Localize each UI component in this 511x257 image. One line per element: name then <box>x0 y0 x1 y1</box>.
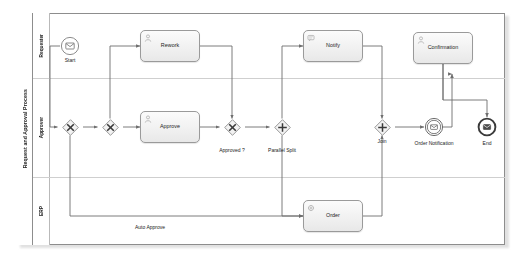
task-confirmation[interactable]: Confirmation <box>413 32 473 64</box>
lane-label-erp-text: ERP <box>39 206 44 216</box>
gateway-join-label: Join <box>367 139 397 144</box>
pool-label: Request and Approval Process <box>17 13 33 245</box>
x-gateway-icon <box>224 119 241 136</box>
event-end[interactable] <box>477 117 497 137</box>
event-order-notification-label: Order Notification <box>398 141 470 146</box>
gateway-loop[interactable] <box>102 119 119 136</box>
envelope-filled-icon <box>477 117 497 137</box>
gateway-join[interactable] <box>374 119 391 136</box>
lane-label-requester: Requester <box>33 13 50 78</box>
task-confirmation-label: Confirmation <box>428 45 459 50</box>
event-start[interactable] <box>60 36 80 56</box>
plus-gateway-icon <box>274 119 291 136</box>
gateway-merge[interactable] <box>62 119 79 136</box>
task-approve[interactable]: Approve <box>140 111 200 143</box>
lane-divider-1 <box>33 78 505 79</box>
edge-label-auto-approve: Auto Approve <box>115 225 185 230</box>
x-gateway-icon <box>62 119 79 136</box>
envelope-icon <box>60 36 80 56</box>
pool-label-text: Request and Approval Process <box>22 89 28 168</box>
task-rework[interactable]: Rework <box>140 30 200 62</box>
user-task-icon <box>417 36 425 44</box>
x-gateway-icon <box>102 119 119 136</box>
user-task-icon <box>144 115 152 123</box>
lane-label-approver: Approver <box>33 78 50 177</box>
lane-label-approver-text: Approver <box>39 117 44 138</box>
lane-label-requester-text: Requester <box>39 34 44 57</box>
lane-divider-2 <box>33 177 505 178</box>
event-end-label: End <box>472 141 502 146</box>
task-notify-label: Notify <box>326 43 340 48</box>
task-approve-label: Approve <box>160 124 180 129</box>
bpmn-diagram-canvas: Request and Approval Process Requester A… <box>0 0 511 257</box>
task-notify[interactable]: Notify <box>303 30 363 62</box>
gateway-approved[interactable] <box>224 119 241 136</box>
gateway-parallel-split[interactable] <box>274 119 291 136</box>
task-order-label: Order <box>326 213 340 218</box>
task-order[interactable]: Order <box>303 200 363 232</box>
event-start-label: Start <box>50 58 90 63</box>
service-task-icon <box>307 204 315 212</box>
lane-label-erp: ERP <box>33 177 50 245</box>
send-task-icon <box>307 34 315 42</box>
gateway-approved-label: Approved ? <box>205 148 259 153</box>
gateway-parallel-split-label: Parallel Split <box>256 148 308 153</box>
plus-gateway-icon <box>374 119 391 136</box>
user-task-icon <box>144 34 152 42</box>
task-rework-label: Rework <box>161 43 179 48</box>
envelope-icon <box>424 117 444 137</box>
event-order-notification[interactable] <box>424 117 444 137</box>
